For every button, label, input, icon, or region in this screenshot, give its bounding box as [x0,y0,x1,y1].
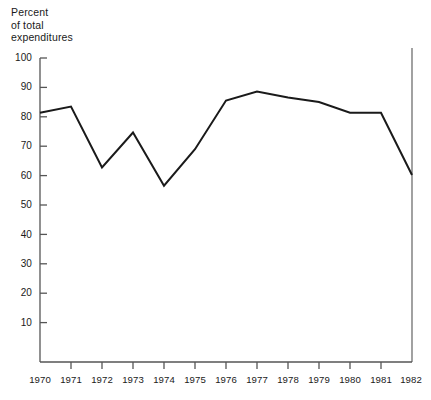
x-tick-label-1982: 1982 [394,375,428,385]
x-tick-label-1975: 1975 [178,375,212,385]
x-tick-label-1977: 1977 [240,375,274,385]
y-tick-label-50: 50 [8,200,32,210]
x-tick-label-1981: 1981 [364,375,398,385]
x-tick-label-1971: 1971 [54,375,88,385]
data-series-line [40,91,412,185]
y-axis-ticks [40,87,47,322]
x-tick-label-1978: 1978 [271,375,305,385]
y-tick-label-70: 70 [8,141,32,151]
chart-figure: Percent of total expenditures [0,0,431,400]
y-tick-label-60: 60 [8,171,32,181]
chart-plot-area [0,0,431,400]
x-axis-ticks [71,362,381,369]
y-tick-label-100: 100 [8,53,32,63]
y-tick-label-30: 30 [8,259,32,269]
x-tick-label-1972: 1972 [85,375,119,385]
y-tick-label-90: 90 [8,82,32,92]
y-tick-label-10: 10 [8,318,32,328]
x-tick-label-1973: 1973 [116,375,150,385]
x-tick-label-1970: 1970 [23,375,57,385]
y-tick-label-80: 80 [8,112,32,122]
x-tick-label-1976: 1976 [209,375,243,385]
x-tick-label-1979: 1979 [302,375,336,385]
y-tick-label-40: 40 [8,230,32,240]
x-tick-label-1974: 1974 [147,375,181,385]
x-tick-label-1980: 1980 [333,375,367,385]
y-tick-label-20: 20 [8,288,32,298]
